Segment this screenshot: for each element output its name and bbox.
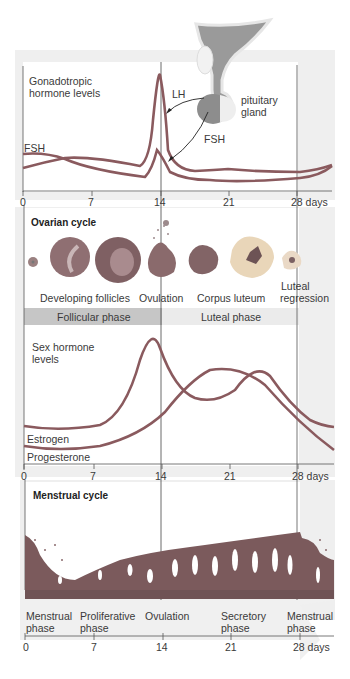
phase-secretory: Secretory: [221, 610, 266, 622]
follicle-icons: [28, 220, 301, 283]
fsh-left-label: FSH: [24, 142, 45, 154]
phase-ovulation: Ovulation: [145, 610, 189, 622]
lh-label: LH: [172, 88, 185, 100]
stage-regression: regression: [280, 292, 329, 304]
stage-corpus-luteum: Corpus luteum: [197, 292, 265, 304]
stage-ovulation: Ovulation: [139, 292, 183, 304]
phase-secretory-b: phase: [221, 622, 250, 634]
pituitary-label: pituitary: [241, 94, 278, 106]
tick-21: 21: [225, 641, 237, 653]
tick-7: 7: [88, 196, 94, 208]
progesterone-curve: [24, 369, 334, 450]
phase-proliferative-b: phase: [80, 622, 109, 634]
tick-21: 21: [223, 196, 235, 208]
progesterone-label: Progesterone: [27, 451, 90, 463]
tick-7: 7: [90, 470, 96, 482]
tick-28: 28 days: [291, 196, 328, 208]
tick-21: 21: [224, 470, 236, 482]
diagram-graphics: [0, 0, 350, 679]
tick-7: 7: [91, 641, 97, 653]
tick-14: 14: [156, 641, 168, 653]
ovarian-title: Ovarian cycle: [31, 217, 96, 229]
tick-0: 0: [20, 196, 26, 208]
phase-proliferative: Proliferative: [80, 610, 135, 622]
phase-menstrual-2: Menstrual: [287, 610, 333, 622]
tick-28: 28 days: [293, 641, 330, 653]
phase-menstrual-2b: phase: [287, 622, 316, 634]
luteal-phase-label: Luteal phase: [201, 311, 261, 323]
gland-label: gland: [241, 106, 267, 118]
phase-menstrual-1b: phase: [26, 622, 55, 634]
stage-luteal: Luteal: [281, 280, 310, 292]
tick-28: 28 days: [292, 470, 329, 482]
gonadotropic-title-2: hormone levels: [29, 87, 100, 99]
sex-hormone-title-2: levels: [32, 353, 59, 365]
stage-developing: Developing follicles: [40, 292, 130, 304]
fsh-arrow-label: FSH: [204, 133, 225, 145]
tick-0: 0: [23, 641, 29, 653]
tick-0: 0: [21, 470, 27, 482]
tick-14: 14: [155, 470, 167, 482]
endometrium-icon: [25, 532, 334, 599]
follicular-phase-label: Follicular phase: [57, 311, 131, 323]
gonadotropic-title: Gonadotropic: [29, 75, 92, 87]
estrogen-label: Estrogen: [27, 433, 69, 445]
sex-hormone-title: Sex hormone: [32, 341, 94, 353]
phase-menstrual-1: Menstrual: [26, 610, 72, 622]
tick-14: 14: [154, 196, 166, 208]
menstrual-title: Menstrual cycle: [33, 490, 108, 502]
